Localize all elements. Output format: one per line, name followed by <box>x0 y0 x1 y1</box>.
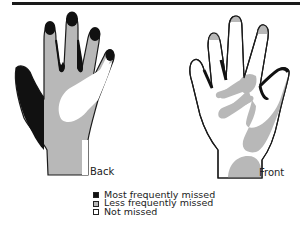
fingertip-black-3 <box>90 27 101 41</box>
legend-item-not: Not missed <box>93 208 215 216</box>
hands-diagram <box>0 0 300 190</box>
fingertip-black-4 <box>106 49 115 61</box>
legend-swatch-white <box>93 209 99 215</box>
back-wrist-white-area <box>82 140 88 175</box>
legend-swatch-gray <box>93 201 99 207</box>
back-hand-illustration <box>15 12 114 176</box>
legend: Most frequently missed Less frequently m… <box>93 191 215 216</box>
front-hand-illustration <box>190 16 289 178</box>
legend-swatch-black <box>93 192 99 198</box>
front-hand-outline <box>190 16 289 178</box>
front-label: Front <box>259 167 284 178</box>
fingertip-black-1 <box>45 21 56 35</box>
back-thumb-black-area <box>16 66 44 150</box>
fingertip-black-2 <box>66 12 78 27</box>
back-label: Back <box>90 166 114 177</box>
web-black-2 <box>78 40 82 71</box>
legend-label-not: Not missed <box>104 208 157 216</box>
